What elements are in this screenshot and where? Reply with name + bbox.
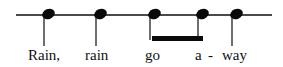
lyric-syllable-1: Rain, <box>28 48 60 63</box>
lyric-syllable-5: way <box>222 48 247 63</box>
lyric-syllable-3: go <box>145 48 160 63</box>
lyric-syllable-2: rain <box>85 48 108 63</box>
lyric-hyphen: - <box>208 48 213 63</box>
lyric-syllable-4: a <box>195 48 202 63</box>
eighth-note-beam <box>152 36 203 41</box>
music-notation-figure: Rain, rain go a - way <box>0 0 283 67</box>
